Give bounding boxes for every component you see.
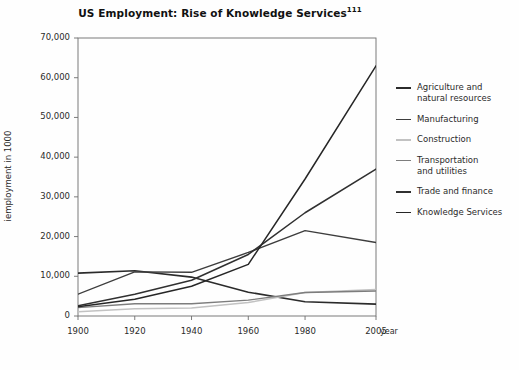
y-tick-label: 10,000: [22, 270, 70, 280]
y-axis-label: iemployment in 1000: [3, 126, 13, 226]
legend-item[interactable]: Agriculture and natural resources: [396, 82, 516, 104]
legend-swatch-icon: [396, 139, 411, 141]
legend-label: Manufacturing: [417, 114, 479, 125]
legend-swatch-icon: [396, 119, 411, 121]
legend-item[interactable]: Knowledge Services: [396, 207, 516, 218]
x-tick-label: 1940: [165, 326, 219, 336]
legend-item[interactable]: Manufacturing: [396, 114, 516, 125]
legend-label: Knowledge Services: [417, 207, 502, 218]
legend-label: Agriculture and natural resources: [417, 82, 491, 104]
x-tick-label: 1960: [221, 326, 275, 336]
legend-swatch-icon: [396, 160, 411, 162]
x-tick-label: 1980: [278, 326, 332, 336]
legend-label: Transportation and utilities: [417, 155, 478, 177]
y-tick-label: 20,000: [22, 231, 70, 241]
legend-label: Construction: [417, 134, 471, 145]
chart-legend: Agriculture and natural resourcesManufac…: [396, 82, 516, 227]
y-tick-label: 40,000: [22, 151, 70, 161]
legend-swatch-icon: [396, 191, 411, 193]
y-tick-label: 70,000: [22, 32, 70, 42]
y-tick-label: 30,000: [22, 191, 70, 201]
legend-item[interactable]: Transportation and utilities: [396, 155, 516, 177]
chart-figure: US Employment: Rise of Knowledge Service…: [0, 0, 519, 370]
legend-swatch-icon: [396, 212, 411, 214]
legend-item[interactable]: Construction: [396, 134, 516, 145]
y-tick-label: 50,000: [22, 111, 70, 121]
y-tick-label: 0: [22, 310, 70, 320]
legend-label: Trade and finance: [417, 186, 493, 197]
legend-item[interactable]: Trade and finance: [396, 186, 516, 197]
x-tick-label: 1900: [51, 326, 105, 336]
y-tick-label: 60,000: [22, 72, 70, 82]
legend-swatch-icon: [396, 87, 411, 89]
x-tick-label: 1920: [108, 326, 162, 336]
x-axis-unit-label: year: [380, 327, 398, 336]
